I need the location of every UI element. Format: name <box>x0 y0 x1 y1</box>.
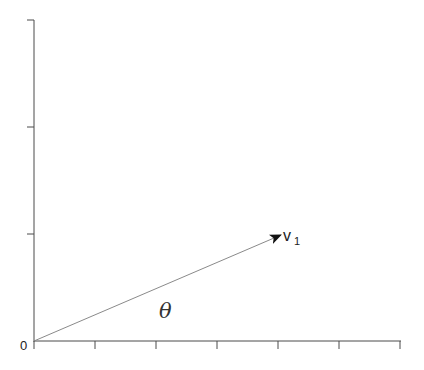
angle-theta-label: θ <box>159 299 172 323</box>
vector-label: v <box>283 227 291 244</box>
vector-diagram: 0 v 1 θ <box>0 0 424 370</box>
vector-label-subscript: 1 <box>294 235 300 247</box>
x-axis <box>34 341 401 349</box>
origin-label: 0 <box>20 338 27 353</box>
vector-v1 <box>34 235 281 341</box>
y-axis <box>27 20 34 342</box>
